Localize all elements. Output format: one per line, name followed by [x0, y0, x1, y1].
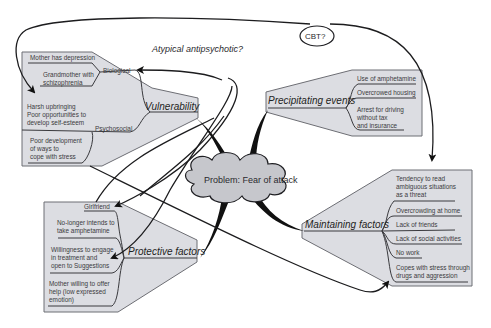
precip-item-3b: without tax	[356, 114, 388, 121]
problem-label: Problem: Fear of attack	[204, 175, 298, 185]
maint-item-1a: Tendency to read	[396, 175, 445, 183]
annotations: Atypical antipsychotic? CBT?	[151, 26, 334, 54]
precip-item-1: Use of amphetamine	[357, 75, 416, 83]
protective-panel: Protective factors Girlfriend No-longer …	[44, 202, 205, 312]
vuln-psy-item-6: cope with stress	[30, 153, 76, 161]
mind-map-canvas: Mother has depression Grandmother with s…	[0, 0, 491, 328]
precip-item-2: Overcrowed housing	[357, 89, 416, 97]
maintaining-title: Maintaining factors	[305, 219, 389, 230]
protect-item-2b: take amphetamine	[57, 227, 110, 235]
protect-item-4c: emotion)	[49, 296, 74, 304]
vulnerability-title: Vulnerability	[145, 101, 200, 112]
protect-item-3b: in treatment and	[51, 254, 98, 261]
arrow-to-biological	[138, 70, 222, 80]
atypical-antipsychotic-note: Atypical antipsychotic?	[151, 44, 243, 54]
vuln-psy-item-3: develop self-esteem	[27, 119, 84, 127]
problem-cloud: Problem: Fear of attack	[186, 153, 299, 203]
vuln-bio-item-2b: schizophrenia	[43, 79, 83, 87]
precip-item-3c: and insurance	[357, 122, 398, 129]
vuln-psy-item-2: Poor opportunities to	[27, 111, 86, 119]
maint-item-6b: drugs and aggression	[396, 272, 458, 280]
protect-item-1: Girlfriend	[84, 203, 110, 210]
maint-item-1c: as a threat	[396, 191, 426, 198]
protective-title: Protective factors	[128, 246, 205, 257]
protect-item-4a: Mother willing to offer	[49, 280, 110, 288]
precip-item-3a: Arrest for driving	[357, 106, 404, 114]
maint-item-1b: ambiguous situations	[396, 183, 456, 191]
protect-item-3c: open to Suggestions	[51, 262, 109, 270]
precipitating-panel: Precipitating events Use of amphetamine …	[266, 70, 422, 136]
biological-label: Biological	[103, 67, 130, 75]
protect-item-2a: No-longer intends to	[57, 219, 115, 227]
maint-item-6a: Copes with stress through	[396, 264, 470, 272]
vuln-psy-item-4: Poor development	[30, 137, 82, 145]
vulnerability-panel: Mother has depression Grandmother with s…	[22, 52, 200, 166]
maint-item-2: Overcrowding at home	[396, 207, 461, 215]
psychosocial-label: Psychosocial	[95, 125, 132, 133]
precipitating-title: Precipitating events	[268, 95, 355, 106]
vuln-psy-item-1: Harsh upbringing	[27, 103, 76, 111]
vuln-bio-item-2a: Grandmother with	[43, 71, 94, 78]
vuln-psy-item-5: of ways to	[30, 145, 59, 153]
protect-item-3a: Willingness to engage	[51, 246, 114, 254]
protect-item-4b: help (low expressed	[49, 288, 106, 296]
maintaining-panel: Maintaining factors Tendency to read amb…	[302, 170, 472, 286]
maint-item-5: No work	[396, 249, 420, 256]
vuln-bio-item-1: Mother has depression	[30, 54, 95, 62]
cbt-label: CBT?	[305, 32, 326, 41]
maint-item-4: Lack of social activities	[396, 235, 461, 242]
maint-item-3: Lack of friends	[396, 221, 438, 228]
